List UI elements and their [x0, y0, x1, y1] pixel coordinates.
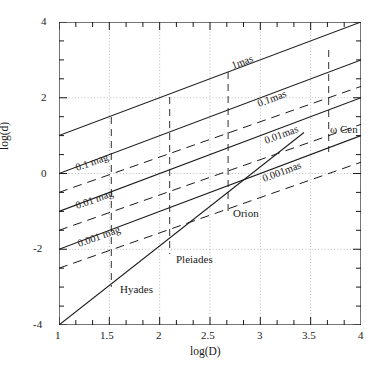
xtick-label-3.5: 3.5 — [302, 329, 316, 341]
y-axis-label: log(d) — [0, 122, 10, 150]
curve-label-0.01mas: 0.01mas — [263, 123, 300, 146]
ytick-label-4: 4 — [41, 15, 47, 27]
curve-label-1mas: 1mas — [230, 53, 255, 71]
curve-label-0.001mag: 0.001 mag — [76, 224, 122, 249]
xtick-label-4: 4 — [358, 329, 364, 341]
curve-label-0.1mag: 0.1 mag — [74, 151, 110, 173]
curve-label-0.01mag: 0.01 mag — [74, 187, 115, 211]
cluster-label-hyades: Hyades — [120, 283, 153, 295]
curve-label-0.001mas: 0.001mas — [261, 159, 303, 184]
gridlines — [59, 22, 361, 325]
xtick-label-1: 1 — [55, 329, 61, 341]
x-axis-label: log(D) — [190, 345, 221, 357]
ytick-label-0: 0 — [41, 167, 47, 179]
ytick-label--4: -4 — [33, 318, 42, 330]
xtick-label-1.5: 1.5 — [100, 329, 114, 341]
xtick-label-3: 3 — [257, 329, 263, 341]
xtick-label-2: 2 — [156, 329, 162, 341]
curve-labels: 1mas 0.1mas 0.01mas 0.001mas 0.1 mag 0.0… — [74, 53, 303, 249]
x-axis-ticks — [59, 22, 344, 325]
magnitude-limit-lines — [59, 86, 361, 268]
figure-container: log(d) — [0, 0, 379, 376]
cluster-label-omega-cen: ω Cen — [330, 123, 358, 135]
plot-area: 1mas 0.1mas 0.01mas 0.001mas 0.1 mag 0.0… — [59, 22, 361, 325]
curve-label-0.1mas: 0.1mas — [256, 88, 288, 109]
cluster-labels: Hyades Pleiades Orion ω Cen — [120, 123, 358, 295]
ytick-label--2: -2 — [33, 242, 42, 254]
cluster-label-orion: Orion — [233, 207, 259, 219]
ytick-label-2: 2 — [41, 91, 47, 103]
chart-svg: 1mas 0.1mas 0.01mas 0.001mas 0.1 mag 0.0… — [59, 22, 361, 325]
xtick-label-2.5: 2.5 — [201, 329, 215, 341]
cluster-label-pleiades: Pleiades — [176, 253, 213, 265]
